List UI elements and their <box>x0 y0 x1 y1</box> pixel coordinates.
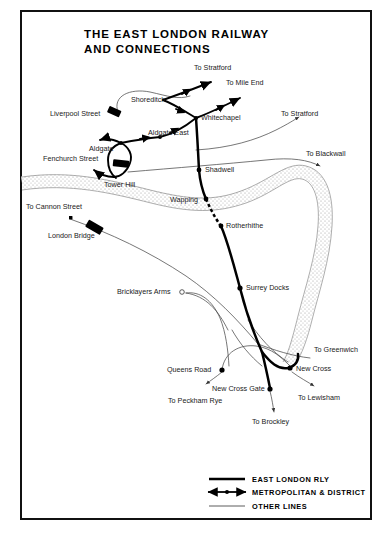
station-marker-new-cross <box>287 365 292 370</box>
legend-swatch-metropolitan-district <box>208 490 246 494</box>
station-label-aldgate: Aldgate <box>89 144 113 153</box>
station-marker-bricklayers-arms <box>180 290 185 295</box>
destination-label-to-cannon-street: To Cannon Street <box>26 202 82 211</box>
station-marker-surrey-docks <box>237 285 242 290</box>
station-label-new-cross-gate: New Cross Gate <box>212 384 265 393</box>
page-title-line1: THE EAST LONDON RAILWAY <box>84 28 269 40</box>
destination-label-to-mile-end: To Mile End <box>226 78 264 87</box>
station-label-rotherhithe: Rotherhithe <box>226 221 263 230</box>
station-label-fenchurch-street: Fenchurch Street <box>43 154 98 163</box>
station-label-liverpool-street: Liverpool Street <box>50 109 100 118</box>
station-label-wapping: Wapping <box>170 195 198 204</box>
page-canvas: THE EAST LONDON RAILWAY AND CONNECTIONS <box>0 0 386 536</box>
station-label-whitechapel: Whitechapel <box>201 113 241 122</box>
station-marker-rotherhithe <box>219 224 224 229</box>
station-marker-new-cross-gate <box>267 386 272 391</box>
legend-label-east-london-rly: EAST LONDON RLY <box>252 475 329 484</box>
destination-label-to-brockley: To Brockley <box>252 417 290 426</box>
station-label-shoreditch: Shoreditch <box>131 95 165 104</box>
station-labels: Liverpool Street Shoreditch Whitechapel … <box>43 95 332 393</box>
station-marker-liverpool-street <box>107 106 122 118</box>
destination-label-to-lewisham: To Lewisham <box>298 393 340 402</box>
station-marker-queens-road <box>219 367 224 372</box>
station-label-new-cross: New Cross <box>296 364 332 373</box>
station-label-bricklayers-arms: Bricklayers Arms <box>117 287 171 296</box>
legend-label-metropolitan-district: METROPOLITAN & DISTRICT <box>252 488 366 497</box>
station-label-surrey-docks: Surrey Docks <box>246 283 290 292</box>
station-label-queens-road: Queens Road <box>167 365 211 374</box>
station-marker-shadwell <box>197 168 202 173</box>
station-label-tower-hill: Tower Hill <box>104 180 136 189</box>
destination-label-to-stratford-east: To Stratford <box>281 109 318 118</box>
station-marker-fenchurch-street <box>113 159 130 168</box>
station-marker-aldgate <box>119 141 123 145</box>
page-title-line2: AND CONNECTIONS <box>84 43 211 55</box>
destination-label-to-blackwall: To Blackwall <box>306 149 346 158</box>
railway-map: THE EAST LONDON RAILWAY AND CONNECTIONS <box>0 0 386 536</box>
destination-label-to-stratford-north: To Stratford <box>194 63 231 72</box>
station-marker-whitechapel <box>194 116 198 120</box>
map-legend: EAST LONDON RLY METROPOLITAN & DISTRICT … <box>208 475 366 511</box>
station-marker-wapping <box>204 197 209 202</box>
station-label-shadwell: Shadwell <box>205 165 235 174</box>
east-london-railway-line <box>196 118 298 388</box>
station-label-aldgate-east: Aldgate East <box>148 128 189 137</box>
station-marker-cannon-street <box>69 216 72 219</box>
legend-label-other-lines: OTHER LINES <box>252 502 307 511</box>
destination-label-to-greenwich: To Greenwich <box>314 345 358 354</box>
destination-label-london-bridge: London Bridge <box>48 231 95 240</box>
destination-label-to-peckham-rye: To Peckham Rye <box>168 396 222 405</box>
